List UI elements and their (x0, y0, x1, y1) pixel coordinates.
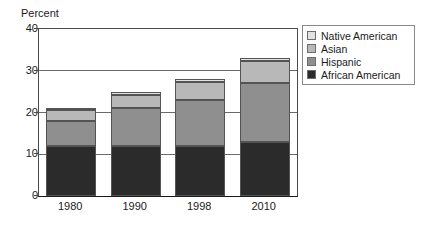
y-tick-label: 20 (4, 107, 38, 118)
x-tick-label: 2010 (234, 200, 294, 213)
bar-segment-hispanic (175, 100, 225, 146)
y-tick-label: 0 (4, 190, 38, 201)
bar-1990 (111, 29, 161, 196)
y-tick-label: 30 (4, 65, 38, 76)
legend-item-label: Hispanic (321, 56, 361, 68)
x-tick-label: 1990 (105, 200, 165, 213)
legend-swatch-icon (307, 44, 316, 53)
bar-segment-hispanic (240, 83, 290, 141)
x-tick-label: 1980 (40, 200, 100, 213)
legend-item-asian[interactable]: Asian (306, 42, 411, 55)
bar-2010 (240, 29, 290, 196)
bar-segment-african-american (175, 146, 225, 196)
bar-segment-asian (240, 61, 290, 83)
legend-swatch-icon (307, 31, 316, 40)
bar-1980 (46, 29, 96, 196)
chart-figure: Percent 010203040 1980199019982010 Nativ… (0, 0, 421, 235)
legend-item-hispanic[interactable]: Hispanic (306, 55, 411, 68)
bar-segment-african-american (240, 142, 290, 196)
legend-item-african-american[interactable]: African American (306, 68, 411, 81)
bar-segment-african-american (111, 146, 161, 196)
bar-segment-african-american (46, 146, 96, 196)
bar-segment-hispanic (111, 108, 161, 146)
bar-segment-native-american (240, 58, 290, 61)
plot-inner (39, 29, 297, 196)
legend-swatch-icon (307, 57, 316, 66)
y-axis: 010203040 (0, 28, 38, 196)
y-tick-label: 10 (4, 148, 38, 159)
legend-item-label: Native American (321, 30, 397, 42)
bar-segment-asian (46, 110, 96, 120)
x-tick-label: 1998 (169, 200, 229, 213)
bar-segment-asian (175, 82, 225, 100)
bar-segment-hispanic (46, 121, 96, 146)
bar-segment-native-american (46, 108, 96, 110)
legend-item-native-american[interactable]: Native American (306, 29, 411, 42)
y-tick-label: 40 (4, 23, 38, 34)
bar-segment-native-american (175, 79, 225, 82)
y-axis-title: Percent (21, 7, 59, 20)
legend-item-label: Asian (321, 43, 347, 55)
legend-swatch-icon (307, 70, 316, 79)
chart-legend: Native AmericanAsianHispanicAfrican Amer… (302, 25, 415, 85)
legend-item-label: African American (321, 69, 400, 81)
bar-segment-asian (111, 95, 161, 109)
bar-1998 (175, 29, 225, 196)
plot-area (38, 28, 298, 197)
bar-segment-native-american (111, 92, 161, 95)
